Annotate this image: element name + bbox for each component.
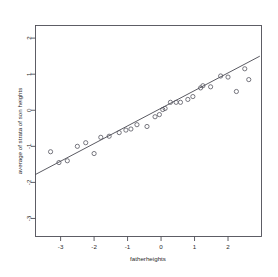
x-tick-label: -1: [125, 243, 131, 250]
data-point-marker: [234, 89, 238, 93]
data-point-marker: [145, 124, 149, 128]
regression-line-segment: [36, 56, 260, 174]
data-point-marker: [92, 151, 96, 155]
y-tick-label: -1: [25, 143, 32, 149]
x-tick-label: -2: [91, 243, 97, 250]
x-tick-label: 0: [159, 243, 163, 250]
plot-frame: [36, 26, 262, 237]
data-point-marker: [99, 135, 103, 139]
y-tick-label: -3: [25, 215, 32, 221]
x-tick-label: 1: [193, 243, 197, 250]
y-axis-ticks: [31, 38, 36, 218]
data-points: [48, 67, 250, 165]
scatter-plot-figure: -3-2-1012 210-1-2-3 fatherheights averag…: [0, 0, 278, 277]
plot-canvas: -3-2-1012 210-1-2-3 fatherheights averag…: [0, 0, 278, 277]
data-point-marker: [247, 78, 251, 82]
y-axis-title: average of strata of son heights: [16, 88, 23, 175]
data-point-marker: [135, 123, 139, 127]
data-point-marker: [75, 144, 79, 148]
data-point-marker: [186, 97, 190, 101]
x-tick-label: 2: [226, 243, 230, 250]
data-point-marker: [48, 150, 52, 154]
x-axis-ticks: [61, 237, 228, 242]
data-point-marker: [65, 159, 69, 163]
data-point-marker: [174, 100, 178, 104]
y-axis-tick-labels: 210-1-2-3: [25, 36, 32, 221]
x-tick-label: -3: [58, 243, 64, 250]
data-point-marker: [209, 85, 213, 89]
y-tick-label: 0: [25, 108, 32, 112]
data-point-marker: [226, 75, 230, 79]
data-point-marker: [243, 67, 247, 71]
y-tick-label: -2: [25, 179, 32, 185]
data-point-marker: [84, 141, 88, 145]
regression-line: [36, 56, 260, 174]
data-point-marker: [178, 100, 182, 104]
data-point-marker: [191, 94, 195, 98]
data-point-marker: [153, 115, 157, 119]
y-tick-label: 1: [25, 72, 32, 76]
y-tick-label: 2: [25, 36, 32, 40]
x-axis-tick-labels: -3-2-1012: [58, 243, 230, 250]
x-axis-title: fatherheights: [130, 255, 166, 262]
data-point-marker: [129, 127, 133, 131]
data-point-marker: [157, 112, 161, 116]
data-point-marker: [117, 131, 121, 135]
data-point-marker: [124, 128, 128, 132]
